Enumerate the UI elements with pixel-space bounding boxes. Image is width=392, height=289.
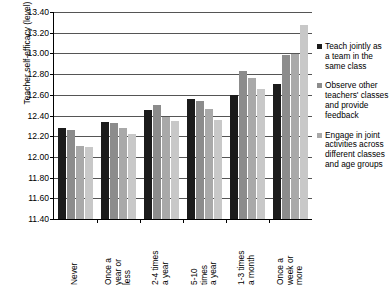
bar (128, 134, 136, 219)
x-axis-label: Never (70, 223, 80, 285)
bar (67, 130, 75, 219)
x-axis-labels: NeverOnce a year or less2-4 times a year… (53, 223, 311, 289)
bar-group (226, 12, 269, 219)
bar (205, 109, 213, 219)
x-axis-label-cell: Once a week or more (268, 223, 311, 289)
y-tick-label: 12.80 (27, 69, 49, 79)
bar (144, 110, 152, 219)
y-tick-label: 12.20 (27, 131, 49, 141)
x-axis-label: Once a year or less (103, 223, 132, 285)
x-axis-label: 5-10 times a year (189, 223, 218, 285)
bar (85, 147, 93, 219)
x-axis-label: Once a week or more (275, 223, 304, 285)
bar (273, 84, 281, 219)
bar (119, 128, 127, 219)
x-axis-label-cell: 2-4 times a year (139, 223, 182, 289)
legend-label: Teach jointly as a team in the same clas… (325, 42, 382, 71)
y-tick-label: 11.60 (28, 193, 49, 203)
bar (230, 95, 238, 219)
y-tick-label: 13.20 (27, 28, 49, 38)
bar (248, 78, 256, 219)
y-tick-label: 13.40 (27, 7, 49, 17)
legend-label: Observe other teachers' classes and prov… (325, 81, 388, 120)
bar (282, 55, 290, 219)
y-tick-mark (50, 219, 54, 220)
bar (58, 128, 66, 219)
x-axis-label-cell: Never (53, 223, 96, 289)
legend-item: Teach jointly as a team in the same clas… (317, 42, 392, 71)
y-tick-label: 12.00 (27, 152, 49, 162)
bar (110, 123, 118, 219)
bar-groups (54, 12, 312, 219)
bar (76, 146, 84, 219)
y-tick-label: 12.60 (27, 90, 49, 100)
bar-group (183, 12, 226, 219)
legend-item: Engage in joint activities across differ… (317, 131, 392, 170)
legend-item: Observe other teachers' classes and prov… (317, 81, 392, 120)
bar (162, 117, 170, 219)
bar (101, 122, 109, 219)
bar (291, 54, 299, 219)
bar (187, 99, 195, 219)
legend-label: Engage in joint activities across differ… (325, 131, 385, 170)
legend-swatch-icon (317, 44, 322, 49)
y-tick-label: 13.00 (27, 48, 49, 58)
bar (196, 101, 204, 219)
x-axis-label-cell: 1-3 times a month (225, 223, 268, 289)
plot-area: 13.4013.2013.0012.8012.6012.4012.2012.00… (53, 12, 312, 220)
chart-legend: Teach jointly as a team in the same clas… (317, 42, 392, 180)
bar-group (97, 12, 140, 219)
x-axis-label: 1-3 times a month (237, 223, 256, 285)
bar (214, 120, 222, 219)
bar (300, 25, 308, 219)
bar (257, 89, 265, 219)
bar (239, 71, 247, 219)
y-tick-label: 11.80 (28, 173, 49, 183)
bar-chart: Teacher self-efficacy (level) 13.4013.20… (0, 0, 392, 289)
bar-group (140, 12, 183, 219)
x-axis-label-cell: Once a year or less (96, 223, 139, 289)
x-axis-label: 2-4 times a year (151, 223, 170, 285)
y-tick-label: 12.40 (27, 111, 49, 121)
bar (171, 121, 179, 219)
x-axis-label-cell: 5-10 times a year (182, 223, 225, 289)
legend-swatch-icon (317, 83, 322, 88)
bar-group (54, 12, 97, 219)
bar-group (269, 12, 312, 219)
y-tick-label: 11.40 (28, 214, 49, 224)
legend-swatch-icon (317, 133, 322, 138)
bar (153, 105, 161, 219)
